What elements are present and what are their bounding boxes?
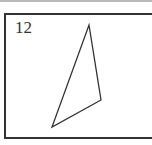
triangle-shape — [52, 25, 101, 127]
triangle-figure — [0, 0, 152, 145]
